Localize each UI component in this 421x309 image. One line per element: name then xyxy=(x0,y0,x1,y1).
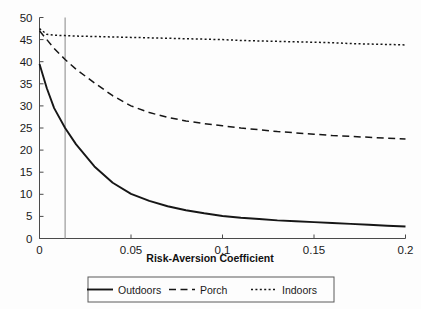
x-axis-tick-label: 0.05 xyxy=(120,244,142,256)
y-axis-tick-label: 20 xyxy=(20,144,33,156)
y-axis-tick-label: 30 xyxy=(20,100,33,112)
y-axis-tick-label: 0 xyxy=(26,233,32,245)
x-axis-tick-label: 0.15 xyxy=(303,244,325,256)
y-axis-tick-label: 35 xyxy=(20,78,33,90)
y-axis-tick-label: 10 xyxy=(20,188,33,200)
y-axis-tick-label: 5 xyxy=(26,210,32,222)
legend-label-indoors: Indoors xyxy=(282,284,317,296)
y-axis-tick-label: 45 xyxy=(20,34,33,46)
y-axis-tick-label: 25 xyxy=(20,122,33,134)
chart-figure: 05101520253035404550 00.050.10.150.2 Ris… xyxy=(0,0,421,309)
risk-aversion-line-chart: 05101520253035404550 00.050.10.150.2 Ris… xyxy=(0,0,421,309)
legend-label-porch: Porch xyxy=(200,284,228,296)
legend-label-outdoors: Outdoors xyxy=(118,284,161,296)
y-axis-tick-label: 15 xyxy=(20,166,33,178)
y-axis-tick-label: 50 xyxy=(20,12,33,24)
x-axis-tick-label: 0.2 xyxy=(398,244,414,256)
y-axis-tick-label: 40 xyxy=(20,56,33,68)
x-axis-tick-label: 0 xyxy=(36,244,42,256)
x-axis-title: Risk-Aversion Coefficient xyxy=(146,252,274,264)
